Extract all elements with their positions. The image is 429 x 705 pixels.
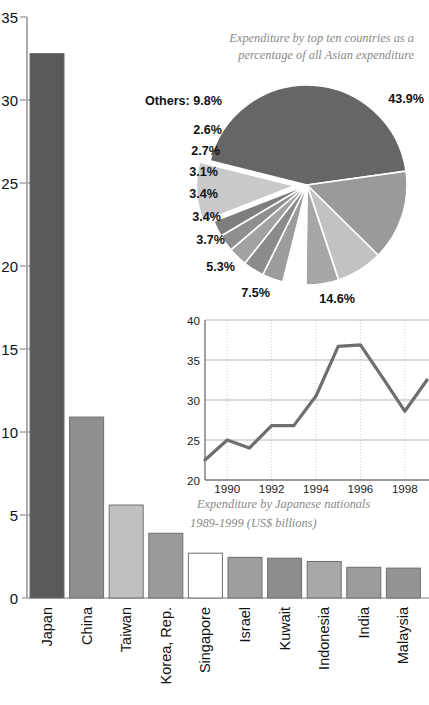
line-ytick-35: 35 bbox=[187, 354, 200, 367]
line-xtick-1992: 1992 bbox=[259, 482, 285, 495]
line-caption-line1: Expenditure by Japanese nationals bbox=[196, 497, 370, 511]
line-xtick-1990: 1990 bbox=[214, 482, 240, 495]
line-xtick-1994: 1994 bbox=[303, 482, 329, 495]
line-ytick-20: 20 bbox=[187, 474, 200, 487]
chart-figure: 35 30 25 20 15 10 5 0 JapanChinaTaiwanKo… bbox=[0, 0, 429, 705]
line-ytick-30: 30 bbox=[187, 394, 200, 407]
line-xtick-1996: 1996 bbox=[348, 482, 374, 495]
line-ytick-40: 40 bbox=[187, 314, 200, 327]
line-chart: 40 35 30 25 20 19901992199419961998 Expe… bbox=[0, 0, 429, 705]
line-caption-line2: 1989-1999 (US$ billions) bbox=[190, 516, 317, 530]
line-xtick-1998: 1998 bbox=[392, 482, 418, 495]
line-ytick-25: 25 bbox=[187, 434, 200, 447]
